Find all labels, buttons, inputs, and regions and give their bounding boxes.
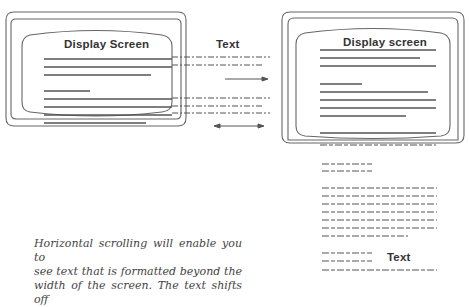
- below-screen-text-lines: [320, 145, 437, 270]
- left-monitor-frame: [6, 12, 186, 126]
- double-arrow-icon: [214, 124, 264, 128]
- caption-line: see text that is formatted beyond the: [34, 265, 242, 279]
- right-monitor-frame: [282, 12, 464, 143]
- text-label-bottom: Text: [387, 251, 411, 263]
- left-screen-title: Display Screen: [64, 38, 149, 50]
- caption-line: Horizontal scrolling will enable you to: [34, 237, 242, 265]
- right-screen-text-lines: [320, 50, 436, 133]
- text-label-top: Text: [216, 38, 240, 50]
- right-arrow-icon: [225, 77, 268, 81]
- caption: Horizontal scrolling will enable you to …: [34, 237, 242, 307]
- caption-line: width of the screen. The text shifts off: [34, 279, 242, 307]
- offscreen-text-lines: [172, 57, 270, 113]
- right-screen-title: Display screen: [343, 36, 427, 48]
